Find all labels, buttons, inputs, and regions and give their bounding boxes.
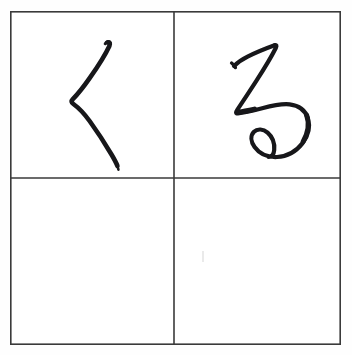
cell-character-top-left: く: [9, 10, 10, 11]
grid-cell-top-left[interactable]: く: [10, 11, 174, 178]
grid-cell-bottom-right[interactable]: [174, 178, 341, 345]
grid-cell-bottom-left[interactable]: [10, 178, 174, 345]
glyph-ru-strokes: [174, 11, 341, 178]
glyph-ku: [10, 11, 174, 178]
cell-character-bottom-left: [9, 177, 10, 178]
glyph-ru: [174, 11, 341, 178]
cell-character-bottom-right: [173, 177, 174, 178]
scan-artifact-speck: [202, 251, 204, 262]
handwriting-worksheet: Hiragana handwriting practice grid く: [0, 0, 352, 355]
grid-cell-top-right[interactable]: る: [174, 11, 341, 178]
cell-character-top-right: る: [173, 10, 174, 11]
glyph-ku-strokes: [10, 11, 174, 178]
practice-grid: く る: [10, 11, 341, 345]
